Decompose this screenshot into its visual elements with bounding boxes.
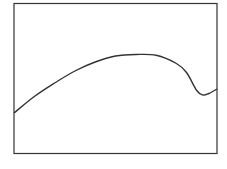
line-chart [0, 0, 227, 169]
plot-frame [14, 4, 217, 154]
